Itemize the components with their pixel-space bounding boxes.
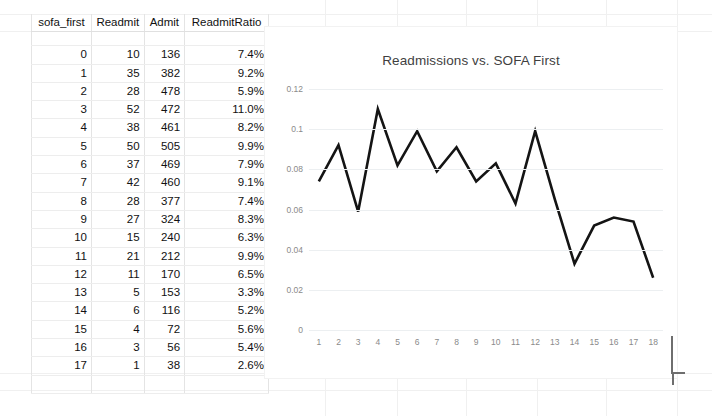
cell-readmit[interactable]: 37 <box>91 156 144 174</box>
selection-corner-handle[interactable] <box>672 372 685 385</box>
cell-admit[interactable]: 505 <box>144 137 184 155</box>
cell-readmit[interactable]: 50 <box>91 137 144 155</box>
cell-readmit-ratio[interactable]: 3.3% <box>185 284 269 302</box>
cell-sofa-first[interactable]: 15 <box>32 320 92 338</box>
cell-readmit-ratio[interactable]: 5.2% <box>185 302 269 320</box>
table-row[interactable]: 10152406.3% <box>32 229 269 247</box>
cell-admit[interactable]: 324 <box>144 210 184 228</box>
cell-readmit-ratio[interactable]: 5.6% <box>185 320 269 338</box>
cell-readmit[interactable]: 10 <box>91 46 144 64</box>
column-header-sofa-first[interactable]: sofa_first <box>32 14 92 32</box>
cell-readmit-ratio[interactable]: 6.3% <box>185 229 269 247</box>
cell-readmit[interactable]: 52 <box>91 101 144 119</box>
cell-sofa-first[interactable]: 7 <box>32 174 92 192</box>
table-row[interactable]: 171382.6% <box>32 357 269 375</box>
cell-readmit[interactable]: 21 <box>91 247 144 265</box>
cell-readmit[interactable]: 6 <box>91 302 144 320</box>
cell-readmit[interactable]: 3 <box>91 339 144 357</box>
cell-admit[interactable]: 478 <box>144 82 184 100</box>
x-axis-tick-label: 16 <box>609 337 618 347</box>
cell-sofa-first[interactable]: 14 <box>32 302 92 320</box>
table-row[interactable]: 5505059.9% <box>32 137 269 155</box>
cell-readmit-ratio[interactable]: 7.4% <box>185 46 269 64</box>
cell-admit[interactable]: 472 <box>144 101 184 119</box>
cell-readmit-ratio[interactable]: 9.9% <box>185 247 269 265</box>
cell-admit[interactable]: 460 <box>144 174 184 192</box>
table-spacer-row <box>32 32 269 46</box>
column-header-readmit[interactable]: Readmit <box>91 14 144 32</box>
table-row[interactable]: 6374697.9% <box>32 156 269 174</box>
table-row[interactable]: 0101367.4% <box>32 46 269 64</box>
cell-sofa-first[interactable]: 17 <box>32 357 92 375</box>
cell-sofa-first[interactable]: 13 <box>32 284 92 302</box>
cell-readmit[interactable]: 27 <box>91 210 144 228</box>
cell-readmit-ratio[interactable]: 9.2% <box>185 64 269 82</box>
table-row[interactable]: 2284785.9% <box>32 82 269 100</box>
cell-readmit-ratio[interactable]: 7.9% <box>185 156 269 174</box>
cell-sofa-first[interactable]: 12 <box>32 265 92 283</box>
cell-admit[interactable]: 461 <box>144 119 184 137</box>
table-row[interactable]: 1461165.2% <box>32 302 269 320</box>
cell-readmit-ratio[interactable]: 8.3% <box>185 210 269 228</box>
cell-readmit-ratio[interactable]: 5.9% <box>185 82 269 100</box>
cell-readmit-ratio[interactable]: 7.4% <box>185 192 269 210</box>
table-row[interactable]: 154725.6% <box>32 320 269 338</box>
cell-sofa-first[interactable]: 3 <box>32 101 92 119</box>
cell-readmit[interactable]: 38 <box>91 119 144 137</box>
cell-readmit[interactable]: 5 <box>91 284 144 302</box>
cell-admit[interactable]: 170 <box>144 265 184 283</box>
cell-readmit[interactable]: 1 <box>91 357 144 375</box>
table-row[interactable]: 12111706.5% <box>32 265 269 283</box>
cell-sofa-first[interactable]: 10 <box>32 229 92 247</box>
cell-admit[interactable]: 153 <box>144 284 184 302</box>
cell-readmit-ratio[interactable]: 9.1% <box>185 174 269 192</box>
table-row[interactable]: 4384618.2% <box>32 119 269 137</box>
table-row[interactable]: 1351533.3% <box>32 284 269 302</box>
cell-admit[interactable]: 469 <box>144 156 184 174</box>
cell-admit[interactable]: 56 <box>144 339 184 357</box>
cell-sofa-first[interactable]: 2 <box>32 82 92 100</box>
cell-readmit[interactable]: 15 <box>91 229 144 247</box>
cell-admit[interactable]: 377 <box>144 192 184 210</box>
column-header-readmitratio[interactable]: ReadmitRatio <box>185 14 269 32</box>
cell-sofa-first[interactable]: 6 <box>32 156 92 174</box>
cell-readmit[interactable]: 4 <box>91 320 144 338</box>
cell-readmit[interactable]: 42 <box>91 174 144 192</box>
table-row[interactable]: 7424609.1% <box>32 174 269 192</box>
cell-sofa-first[interactable]: 16 <box>32 339 92 357</box>
table-row[interactable]: 1353829.2% <box>32 64 269 82</box>
table-row[interactable]: 9273248.3% <box>32 210 269 228</box>
cell-readmit[interactable]: 28 <box>91 192 144 210</box>
cell-readmit[interactable]: 11 <box>91 265 144 283</box>
cell-readmit[interactable]: 28 <box>91 82 144 100</box>
table-row[interactable]: 8283777.4% <box>32 192 269 210</box>
cell-sofa-first[interactable]: 9 <box>32 210 92 228</box>
table-row[interactable]: 11212129.9% <box>32 247 269 265</box>
cell-admit[interactable]: 72 <box>144 320 184 338</box>
cell-sofa-first[interactable]: 8 <box>32 192 92 210</box>
cell-readmit-ratio[interactable]: 9.9% <box>185 137 269 155</box>
cell-admit[interactable]: 212 <box>144 247 184 265</box>
cell-readmit-ratio[interactable]: 5.4% <box>185 339 269 357</box>
cell-admit[interactable]: 116 <box>144 302 184 320</box>
table-row[interactable]: 35247211.0% <box>32 101 269 119</box>
cell-readmit-ratio[interactable]: 11.0% <box>185 101 269 119</box>
cell-sofa-first[interactable]: 11 <box>32 247 92 265</box>
cell-readmit-ratio[interactable]: 8.2% <box>185 119 269 137</box>
cell-sofa-first[interactable]: 4 <box>32 119 92 137</box>
column-header-admit[interactable]: Admit <box>144 14 184 32</box>
cell-admit[interactable]: 382 <box>144 64 184 82</box>
x-axis-tick-label: 15 <box>589 337 598 347</box>
cell-admit[interactable]: 240 <box>144 229 184 247</box>
cell-readmit-ratio[interactable]: 2.6% <box>185 357 269 375</box>
cell-admit[interactable]: 136 <box>144 46 184 64</box>
cell-sofa-first[interactable]: 0 <box>32 46 92 64</box>
cell-admit[interactable]: 38 <box>144 357 184 375</box>
x-axis-tick-label: 5 <box>395 337 400 347</box>
cell-sofa-first[interactable]: 5 <box>32 137 92 155</box>
cell-readmit-ratio[interactable]: 6.5% <box>185 265 269 283</box>
table-row[interactable]: 163565.4% <box>32 339 269 357</box>
cell-sofa-first[interactable]: 1 <box>32 64 92 82</box>
cell-readmit[interactable]: 35 <box>91 64 144 82</box>
chart-object[interactable]: Readmissions vs. SOFA First 00.020.040.0… <box>264 26 678 379</box>
